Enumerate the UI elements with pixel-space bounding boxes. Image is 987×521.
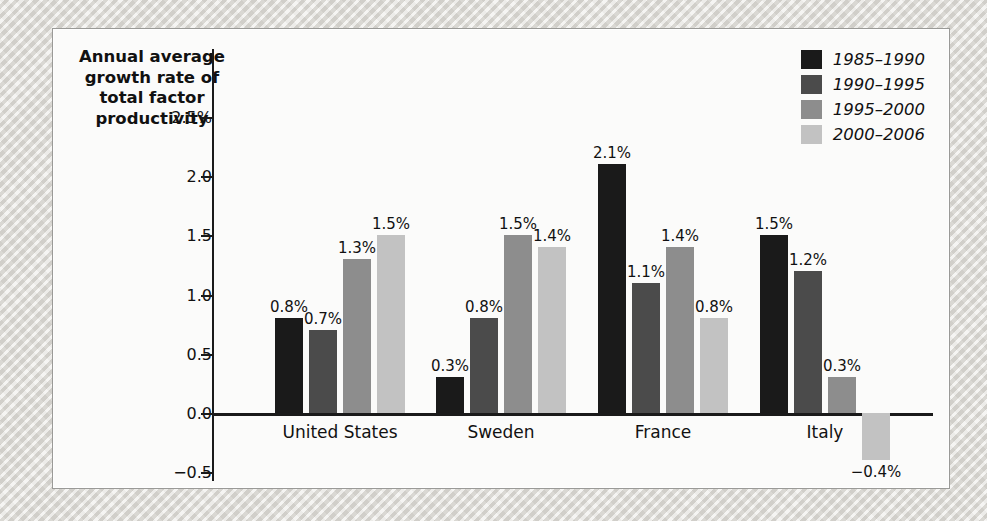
bar-value-label: 1.5% [755, 215, 793, 233]
legend-item-label: 1985–1990 [833, 50, 925, 69]
bar-value-label: 0.7% [304, 310, 342, 328]
chart-panel: Annual average growth rate of total fact… [52, 28, 950, 489]
x-axis-label-sweden: Sweden [467, 422, 534, 442]
bar [862, 413, 890, 460]
bar [470, 318, 498, 413]
y-axis-tick-mark [201, 176, 214, 178]
y-axis-line [212, 49, 214, 481]
bar-chart: Annual average growth rate of total fact… [53, 29, 949, 488]
legend-item-label: 1995–2000 [833, 100, 925, 119]
legend-item-label: 1990–1995 [833, 75, 925, 94]
legend-color-swatch [801, 100, 822, 119]
y-axis-tick-mark [201, 295, 214, 297]
x-axis-label-italy: Italy [807, 422, 844, 442]
legend-color-swatch [801, 125, 822, 144]
bar-value-label: 0.8% [695, 298, 733, 316]
bar [343, 259, 371, 413]
bar [538, 247, 566, 413]
legend-item-label: 2000–2006 [833, 125, 925, 144]
legend-item: 2000–2006 [801, 122, 925, 147]
bar-value-label: 1.3% [338, 239, 376, 257]
x-axis-label-france: France [635, 422, 692, 442]
bar [760, 235, 788, 413]
bar [504, 235, 532, 413]
bar-value-label: 1.1% [627, 263, 665, 281]
y-axis-tick-mark [201, 354, 214, 356]
y-axis-tick-mark [201, 235, 214, 237]
bar-value-label: 2.1% [593, 144, 631, 162]
legend-item: 1995–2000 [801, 97, 925, 122]
legend-item: 1990–1995 [801, 72, 925, 97]
legend-color-swatch [801, 50, 822, 69]
y-axis-tick-mark [201, 117, 214, 119]
bar [632, 283, 660, 413]
bar [377, 235, 405, 413]
bar [666, 247, 694, 413]
bar [309, 330, 337, 413]
bar-value-label: 1.4% [533, 227, 571, 245]
bar [700, 318, 728, 413]
legend-color-swatch [801, 75, 822, 94]
bar-value-label: 1.5% [499, 215, 537, 233]
zero-baseline [212, 413, 933, 416]
bar-value-label: 0.8% [465, 298, 503, 316]
y-axis-tick-mark [201, 472, 214, 474]
bar-value-label: 1.2% [789, 251, 827, 269]
bar [275, 318, 303, 413]
y-axis-tick-mark [201, 413, 214, 415]
bar-value-label: 0.3% [431, 357, 469, 375]
legend-item: 1985–1990 [801, 47, 925, 72]
bar [598, 164, 626, 413]
x-axis-label-united-states: United States [282, 422, 397, 442]
bar [794, 271, 822, 413]
bar [828, 377, 856, 413]
bar-value-label: 0.8% [270, 298, 308, 316]
bar-value-label: 1.4% [661, 227, 699, 245]
bar-value-label: 0.3% [823, 357, 861, 375]
bar-value-label: 1.5% [372, 215, 410, 233]
bar-value-label: −0.4% [851, 463, 902, 481]
bar [436, 377, 464, 413]
chart-legend: 1985–19901990–19951995–20002000–2006 [801, 47, 925, 147]
